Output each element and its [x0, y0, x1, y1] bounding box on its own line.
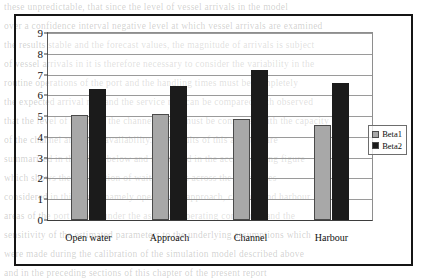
- y-axis-tick-label: 0: [38, 214, 44, 226]
- y-axis-tick-label: 9: [38, 27, 44, 39]
- y-axis-tick-label: 4: [38, 131, 44, 143]
- x-axis-category-label: Approach: [150, 232, 189, 243]
- legend-swatch-icon: [372, 142, 379, 149]
- y-axis-tick-label: 6: [38, 89, 44, 101]
- bars-layer: [48, 33, 372, 220]
- bar-channel-beta2: [251, 70, 268, 220]
- legend-swatch-icon: [372, 131, 379, 138]
- bar-approach-beta2: [170, 86, 187, 220]
- y-axis-tick-label: 1: [38, 193, 44, 205]
- x-axis-category-label: Channel: [234, 232, 267, 243]
- y-axis-tick-label: 3: [38, 152, 44, 164]
- bar-channel-beta1: [233, 119, 250, 220]
- bar-harbour-beta1: [314, 125, 331, 220]
- plot-area: 0123456789 Open waterApproachChannelHarb…: [47, 32, 373, 221]
- y-axis-tick-label: 5: [38, 110, 44, 122]
- x-axis-category-label: Harbour: [315, 232, 348, 243]
- bar-chart: 0123456789 Open waterApproachChannelHarb…: [16, 16, 411, 264]
- legend-item-beta2: Beta2: [372, 142, 402, 151]
- y-axis-tick-label: 8: [38, 48, 44, 60]
- chart-legend: Beta1Beta2: [368, 125, 407, 155]
- bleedthrough-line: these unpredictable, that since the leve…: [4, 2, 423, 12]
- y-axis-tick-label: 2: [38, 172, 44, 184]
- bar-approach-beta1: [152, 114, 169, 220]
- bleedthrough-line: and in the preceding sections of this ch…: [4, 268, 423, 278]
- x-axis-category-label: Open water: [65, 232, 111, 243]
- y-axis-tick-label: 7: [38, 69, 44, 81]
- legend-label: Beta2: [382, 142, 402, 151]
- figure-frame: 0123456789 Open waterApproachChannelHarb…: [14, 14, 413, 266]
- legend-label: Beta1: [382, 130, 402, 139]
- bar-open-water-beta1: [71, 115, 88, 220]
- bar-open-water-beta2: [89, 89, 106, 220]
- legend-item-beta1: Beta1: [372, 130, 402, 139]
- bar-harbour-beta2: [332, 83, 349, 220]
